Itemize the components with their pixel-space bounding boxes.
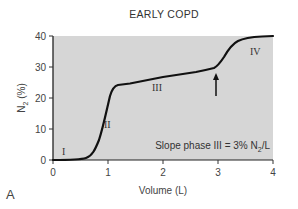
y-tick-label-40: 40 — [35, 31, 47, 42]
x-tick-label-4: 4 — [270, 167, 276, 178]
x-tick-label-2: 2 — [160, 167, 166, 178]
y-tick-label-30: 30 — [35, 62, 47, 73]
x-axis-label: Volume (L) — [139, 185, 187, 196]
y-axis-label: N2 (%) — [16, 83, 29, 112]
phase-4-label: IV — [250, 46, 261, 57]
y-tick-label-10: 10 — [35, 124, 47, 135]
x-ticks — [53, 160, 273, 164]
phase-2-label: II — [104, 119, 111, 130]
phase-3-label: III — [152, 82, 162, 93]
panel-letter: A — [6, 187, 15, 202]
chart-svg: 0 10 20 30 40 0 1 2 3 4 Volume (L) N2 (%… — [0, 0, 298, 209]
x-tick-label-1: 1 — [105, 167, 111, 178]
y-tick-label-0: 0 — [40, 155, 46, 166]
x-tick-label-3: 3 — [215, 167, 221, 178]
phase-1-label: I — [62, 146, 65, 157]
x-tick-label-0: 0 — [50, 167, 56, 178]
y-tick-label-20: 20 — [35, 93, 47, 104]
